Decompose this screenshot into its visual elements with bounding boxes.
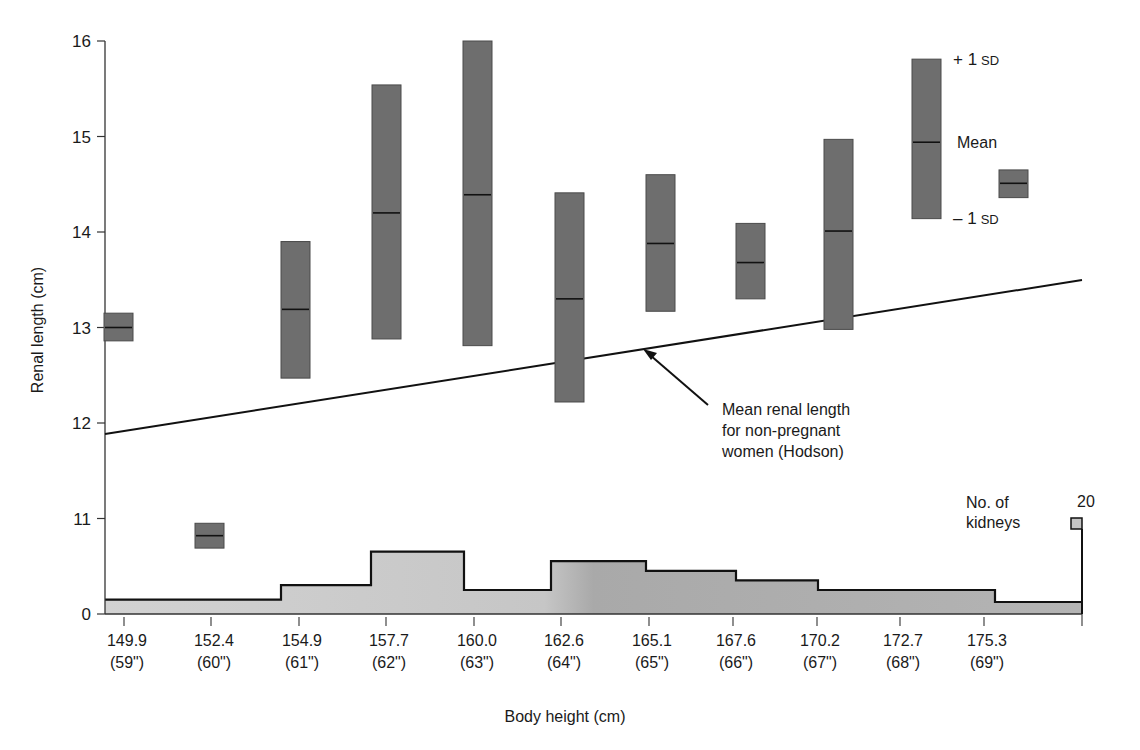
- y-tick-label: 0: [82, 605, 91, 624]
- hodson-arrow: [643, 349, 708, 405]
- sd-boxes: [104, 41, 1028, 548]
- x-ticks: 149.9(59")152.4(60")154.9(61")157.7(62")…: [107, 614, 1082, 671]
- x-tick-label-inches: (61"): [285, 654, 319, 671]
- legend-minus-sd: – 1SD: [953, 209, 999, 228]
- kidneys-label-line2: kidneys: [966, 514, 1020, 531]
- x-tick-label-inches: (68"): [886, 654, 920, 671]
- x-tick-label-cm: 162.6: [544, 632, 584, 649]
- x-tick-label-inches: (59"): [110, 654, 144, 671]
- x-tick-label-cm: 157.7: [369, 632, 409, 649]
- x-tick-label-inches: (66"): [719, 654, 753, 671]
- x-tick-label-cm: 160.0: [457, 632, 497, 649]
- x-tick-label-cm: 152.4: [194, 632, 234, 649]
- sd-box-154.9: [281, 242, 310, 379]
- sd-box-167.6: [736, 223, 765, 298]
- sd-box-149.9: [104, 313, 133, 341]
- x-tick-label-inches: (67"): [803, 654, 837, 671]
- sd-box-165.1: [646, 175, 675, 312]
- renal-length-chart: 1615141312110 149.9(59")152.4(60")154.9(…: [0, 0, 1140, 750]
- x-tick-label-inches: (62"): [372, 654, 406, 671]
- x-tick-label-inches: (65"): [635, 654, 669, 671]
- x-tick-label-inches: (60"): [197, 654, 231, 671]
- x-tick-label-cm: 154.9: [282, 632, 322, 649]
- sd-box-152.4: [195, 523, 224, 548]
- y-tick-label: 11: [73, 510, 91, 529]
- x-tick-label-inches: (63"): [460, 654, 494, 671]
- kidney-count-histogram: [105, 552, 1082, 614]
- hodson-annotation-line2: for non-pregnant: [722, 422, 841, 439]
- x-tick-label-cm: 175.3: [967, 632, 1007, 649]
- y-ticks: 1615141312110: [72, 32, 105, 624]
- y-tick-label: 14: [72, 223, 91, 242]
- y-tick-label: 12: [72, 414, 91, 433]
- x-axis-title: Body height (cm): [505, 708, 626, 725]
- y-axis-title: Renal length (cm): [29, 267, 46, 393]
- sd-box-162.6: [555, 193, 584, 402]
- sd-box-160.0: [463, 41, 492, 346]
- x-tick-label-inches: (69"): [970, 654, 1004, 671]
- sd-box-175.3: [999, 170, 1028, 198]
- y-tick-label: 16: [72, 32, 91, 51]
- kidneys-scale-value: 20: [1077, 493, 1095, 510]
- sd-box-157.7: [372, 85, 401, 339]
- legend-plus-sd: + 1SD: [953, 50, 999, 69]
- hodson-annotation-line3: women (Hodson): [721, 443, 844, 460]
- kidneys-label-line1: No. of: [966, 494, 1009, 511]
- x-tick-label-cm: 172.7: [883, 632, 923, 649]
- x-tick-label-cm: 165.1: [632, 632, 672, 649]
- legend-mean: Mean: [957, 134, 997, 151]
- x-tick-label-cm: 167.6: [716, 632, 756, 649]
- sd-box-172.7: [912, 59, 941, 218]
- hodson-annotation-line1: Mean renal length: [722, 401, 850, 418]
- y-tick-label: 15: [72, 128, 91, 147]
- hodson-reference-line: [105, 280, 1082, 434]
- kidney-scale: [1071, 518, 1082, 614]
- x-tick-label-cm: 170.2: [800, 632, 840, 649]
- sd-box-170.2: [824, 139, 853, 329]
- x-tick-label-inches: (64"): [547, 654, 581, 671]
- kidney-scale-marker: [1071, 518, 1082, 529]
- y-tick-label: 13: [72, 319, 91, 338]
- x-tick-label-cm: 149.9: [107, 632, 147, 649]
- sd-legend: + 1SD Mean – 1SD: [953, 50, 999, 228]
